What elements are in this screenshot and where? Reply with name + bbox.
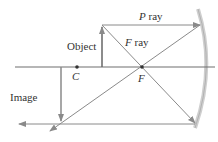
center-point [75, 65, 79, 69]
ray-diagram: Object Image C F P ray F ray [0, 0, 218, 142]
focus-label: F [137, 72, 145, 84]
p-ray-label: P ray [138, 10, 163, 22]
object-label: Object [67, 40, 96, 52]
f-ray-label: F ray [124, 36, 149, 48]
center-label: C [72, 70, 80, 82]
focus-point [140, 65, 144, 69]
image-label: Image [10, 91, 38, 103]
